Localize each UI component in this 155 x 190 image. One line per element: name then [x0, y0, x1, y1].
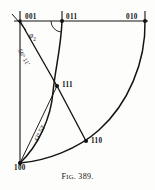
stereographic-projection-diagram	[0, 0, 155, 190]
figure-container: 001 011 010 111 110 100 φ2 56° 11' 43° 5…	[0, 0, 155, 190]
vertex-marker-010	[143, 19, 147, 23]
point-label-111: 111	[62, 82, 73, 89]
angle-marker-arc-011-icon	[51, 21, 61, 32]
caption-ig: IG	[66, 173, 74, 180]
vertex-marker-110	[84, 139, 88, 143]
point-label-001: 001	[25, 14, 37, 21]
vertex-marker-011	[60, 19, 64, 23]
angle-label-phi2: φ2	[29, 32, 36, 42]
vertex-marker-111	[55, 84, 59, 88]
zone-line-111-110	[57, 86, 86, 141]
phi-subscript: 2	[33, 36, 36, 42]
figure-caption: FIG. 389.	[0, 172, 155, 181]
point-label-010: 010	[126, 14, 138, 21]
point-label-011: 011	[66, 14, 77, 21]
vertex-marker-001	[18, 19, 21, 22]
arc-011-to-100	[20, 21, 62, 163]
point-label-110: 110	[91, 138, 102, 145]
caption-number: . 389.	[74, 172, 94, 181]
